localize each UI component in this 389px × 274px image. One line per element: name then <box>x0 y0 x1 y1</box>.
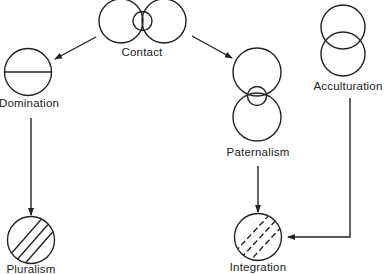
contact-label: Contact <box>121 46 162 58</box>
domination-label: Domination <box>0 97 59 109</box>
paternalism-label: Paternalism <box>227 146 290 158</box>
acculturation-node-icon <box>321 5 365 76</box>
diagram-graphics <box>0 0 389 274</box>
paternalism-node-icon <box>233 48 281 141</box>
arrow-contact-to-paternalism <box>192 36 232 58</box>
contact-node-icon <box>99 0 186 43</box>
pluralism-label: Pluralism <box>6 263 55 274</box>
domination-node-icon <box>5 49 52 96</box>
arrow-contact-to-domination <box>55 37 96 59</box>
acculturation-label: Acculturation <box>313 80 382 92</box>
integration-node-icon <box>235 212 285 264</box>
arrow-acculturation-to-integration <box>288 98 350 237</box>
pluralism-node-icon <box>8 215 58 267</box>
integration-label: Integration <box>230 261 287 273</box>
race-relations-diagram: Contact Domination Paternalism Accultura… <box>0 0 389 274</box>
